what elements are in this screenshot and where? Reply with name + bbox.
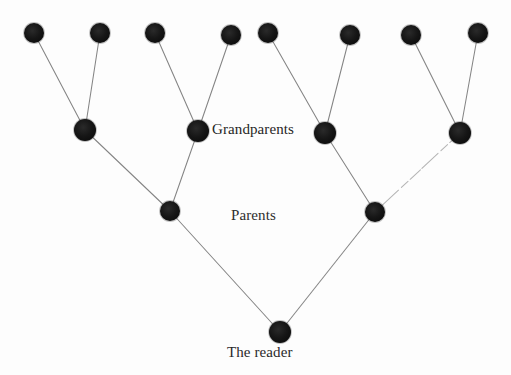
tree-edge bbox=[375, 133, 460, 212]
node-disc[interactable] bbox=[269, 321, 291, 343]
node-disc[interactable] bbox=[24, 23, 44, 43]
node-disc[interactable] bbox=[258, 23, 278, 43]
tree-edge bbox=[170, 211, 280, 332]
node-disc[interactable] bbox=[468, 23, 488, 43]
label-parents: Parents bbox=[231, 207, 276, 224]
tree-node-great-grandparents[interactable] bbox=[144, 22, 166, 44]
tree-node-parents[interactable] bbox=[159, 200, 181, 222]
node-disc[interactable] bbox=[221, 25, 241, 45]
tree-edge bbox=[411, 35, 460, 133]
tree-edge bbox=[85, 130, 170, 211]
node-disc[interactable] bbox=[145, 23, 165, 43]
node-disc[interactable] bbox=[90, 23, 110, 43]
node-disc[interactable] bbox=[160, 201, 180, 221]
tree-edge bbox=[325, 35, 350, 133]
node-disc[interactable] bbox=[365, 202, 385, 222]
tree-node-great-grandparents[interactable] bbox=[339, 24, 361, 46]
tree-edge bbox=[155, 33, 198, 131]
tree-node-great-grandparents[interactable] bbox=[257, 22, 279, 44]
tree-edge bbox=[198, 35, 231, 131]
tree-node-grandparents[interactable] bbox=[313, 121, 337, 145]
tree-edge bbox=[460, 33, 478, 133]
node-disc[interactable] bbox=[449, 122, 471, 144]
tree-edge bbox=[34, 33, 85, 130]
nodes-layer bbox=[23, 22, 489, 344]
edges-layer bbox=[34, 33, 478, 332]
tree-node-grandparents[interactable] bbox=[73, 118, 97, 142]
node-disc[interactable] bbox=[187, 120, 209, 142]
tree-edge bbox=[85, 33, 100, 130]
tree-node-great-grandparents[interactable] bbox=[89, 22, 111, 44]
tree-edge bbox=[170, 131, 198, 211]
node-disc[interactable] bbox=[74, 119, 96, 141]
tree-edge bbox=[268, 33, 325, 133]
label-grandparents: Grandparents bbox=[212, 121, 294, 138]
node-disc[interactable] bbox=[340, 25, 360, 45]
node-disc[interactable] bbox=[401, 25, 421, 45]
tree-edge bbox=[325, 133, 375, 212]
tree-node-great-grandparents[interactable] bbox=[467, 22, 489, 44]
tree-node-grandparents[interactable] bbox=[186, 119, 210, 143]
family-tree-diagram: Grandparents Parents The reader bbox=[0, 0, 511, 375]
tree-node-parents[interactable] bbox=[364, 201, 386, 223]
tree-edge bbox=[280, 212, 375, 332]
node-disc[interactable] bbox=[314, 122, 336, 144]
label-reader: The reader bbox=[227, 344, 293, 361]
tree-node-great-grandparents[interactable] bbox=[220, 24, 242, 46]
tree-node-great-grandparents[interactable] bbox=[23, 22, 45, 44]
tree-node-grandparents[interactable] bbox=[448, 121, 472, 145]
tree-canvas bbox=[0, 0, 511, 375]
tree-node-reader[interactable] bbox=[268, 320, 292, 344]
tree-node-great-grandparents[interactable] bbox=[400, 24, 422, 46]
